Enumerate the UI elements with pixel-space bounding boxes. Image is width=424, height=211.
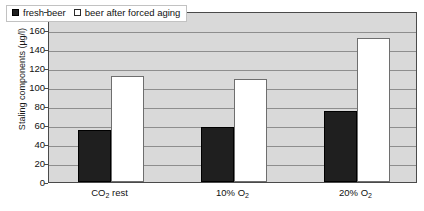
y-tick-label: 20 bbox=[3, 159, 45, 169]
y-tick-label: 120 bbox=[3, 64, 45, 74]
bar-aged-beer bbox=[111, 76, 144, 182]
x-tick-label: 20% O2 bbox=[294, 187, 417, 207]
y-tick-label: 160 bbox=[3, 26, 45, 36]
legend-swatch-aged-beer-icon bbox=[74, 9, 81, 16]
bar-fresh-beer bbox=[78, 130, 111, 182]
x-tick-label: CO2 rest bbox=[48, 187, 171, 207]
y-tick-mark bbox=[44, 12, 48, 13]
gridline bbox=[49, 32, 416, 33]
bar-aged-beer bbox=[357, 38, 390, 182]
bar-chart: Staling components (µg/l) 18016014012010… bbox=[0, 0, 424, 211]
y-tick-mark bbox=[44, 69, 48, 70]
y-tick-mark bbox=[44, 164, 48, 165]
y-tick-label: 100 bbox=[3, 83, 45, 93]
y-tick-mark bbox=[44, 31, 48, 32]
bar-aged-beer bbox=[234, 79, 267, 182]
y-tick-label: 0 bbox=[3, 178, 45, 188]
y-tick-label: 80 bbox=[3, 102, 45, 112]
y-tick-mark bbox=[44, 50, 48, 51]
bar-fresh-beer bbox=[324, 111, 357, 182]
y-tick-mark bbox=[44, 183, 48, 184]
y-tick-mark bbox=[44, 145, 48, 146]
y-axis-tick-labels: 180160140120100806040200 bbox=[0, 0, 45, 211]
x-axis-tick-labels: CO2 rest10% O220% O2 bbox=[48, 187, 417, 207]
y-tick-mark bbox=[44, 107, 48, 108]
legend-entry: beer after forced aging bbox=[74, 8, 181, 18]
legend-label: beer after forced aging bbox=[85, 8, 181, 18]
legend-swatch-fresh-beer-icon bbox=[12, 9, 19, 16]
y-tick-mark bbox=[44, 88, 48, 89]
y-tick-label: 140 bbox=[3, 45, 45, 55]
legend-entry: fresh beer bbox=[12, 8, 66, 18]
y-tick-mark bbox=[44, 126, 48, 127]
y-tick-label: 60 bbox=[3, 121, 45, 131]
plot-area bbox=[48, 12, 417, 183]
x-tick-label: 10% O2 bbox=[171, 187, 294, 207]
bar-fresh-beer bbox=[201, 127, 234, 182]
y-tick-label: 40 bbox=[3, 140, 45, 150]
legend: fresh beerbeer after forced aging bbox=[6, 5, 187, 22]
